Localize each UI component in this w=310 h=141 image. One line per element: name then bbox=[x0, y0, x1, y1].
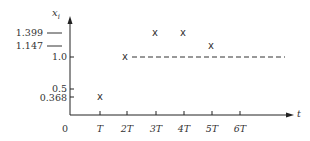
x-label-2T: 2T bbox=[121, 124, 133, 134]
x-axis-title: t bbox=[297, 109, 301, 119]
y-label-1.147: 1.147 bbox=[16, 41, 43, 51]
data-point-5T: x bbox=[208, 41, 214, 51]
y-axis-arrow-icon bbox=[68, 16, 73, 24]
x-axis-arrow-icon bbox=[286, 113, 294, 118]
data-point-3T: x bbox=[152, 28, 158, 38]
x-label-T: T bbox=[97, 124, 103, 134]
x-label-5T: 5T bbox=[206, 124, 218, 134]
x-label-4T: 4T bbox=[178, 124, 190, 134]
x-label-6T: 6T bbox=[234, 124, 246, 134]
y-axis-title: xi bbox=[52, 8, 60, 22]
y-axis-title-sub: i bbox=[58, 13, 60, 21]
data-point-2T: x bbox=[122, 52, 128, 62]
chart-axes bbox=[0, 0, 310, 141]
origin-label: 0 bbox=[62, 124, 68, 134]
step-response-chart: xi t 0 1.399 1.147 1.0 0.5 0.368 T 2T 3T… bbox=[0, 0, 310, 141]
y-label-0.368: 0.368 bbox=[40, 93, 67, 103]
y-label-1.0: 1.0 bbox=[52, 52, 67, 62]
y-label-1.399: 1.399 bbox=[16, 28, 43, 38]
x-label-3T: 3T bbox=[150, 124, 162, 134]
data-point-4T: x bbox=[180, 28, 186, 38]
data-point-T: x bbox=[97, 92, 103, 102]
